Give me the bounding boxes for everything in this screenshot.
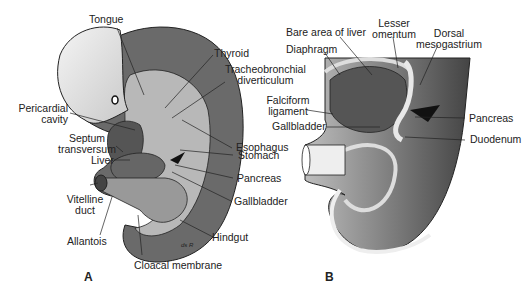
label-pancreas: Pancreas (237, 173, 281, 184)
label-pericardial-line2: cavity (16, 114, 68, 125)
label-diaphragm: Diaphragm (286, 44, 337, 55)
label-vitelline-line2: duct (60, 205, 110, 216)
label-thyroid: Thyroid (214, 48, 249, 59)
label-vitelline-duct: Vitelline duct (60, 194, 110, 216)
vitelline-b-end (302, 145, 310, 175)
label-tracheobronchial: Tracheobronchial diverticulum (225, 64, 306, 86)
label-pericardial-cavity: Pericardial cavity (16, 103, 68, 125)
label-stomach: Stomach (238, 150, 279, 161)
label-hindgut: Hindgut (212, 232, 248, 243)
panel-label-b: B (325, 270, 334, 284)
label-falciform-line2: ligament (266, 106, 310, 117)
liver-a (111, 153, 165, 182)
label-gallbladder-b: Gallbladder (272, 121, 326, 132)
label-tracheobronchial-line2: diverticulum (225, 75, 306, 86)
label-pancreas-b: Pancreas (469, 113, 513, 124)
label-duodenum: Duodenum (470, 134, 521, 145)
label-allantois: Allantois (67, 236, 107, 247)
label-liver: Liver (91, 155, 114, 166)
label-falciform-ligament: Falciform ligament (266, 95, 310, 117)
label-bare-area-of-liver: Bare area of liver (286, 27, 366, 38)
label-gallbladder: Gallbladder (234, 196, 288, 207)
label-cloacal-membrane: Cloacal membrane (134, 260, 222, 271)
panel-b-embryo (302, 58, 470, 252)
artist-signature: ds R (181, 240, 193, 251)
label-lesser-omentum: Lesser omentum (372, 18, 416, 40)
embryo-a-head (58, 27, 128, 123)
label-septum-transversum: Septum transversum (57, 133, 117, 155)
label-dorsal-line2: mesogastrium (412, 39, 486, 50)
label-tongue: Tongue (89, 14, 123, 25)
panel-label-a: A (84, 270, 93, 284)
eye (112, 96, 118, 104)
label-dorsal-mesogastrium: Dorsal mesogastrium (412, 28, 486, 50)
label-lesser-line2: omentum (372, 29, 416, 40)
vitelline-b (305, 145, 345, 175)
